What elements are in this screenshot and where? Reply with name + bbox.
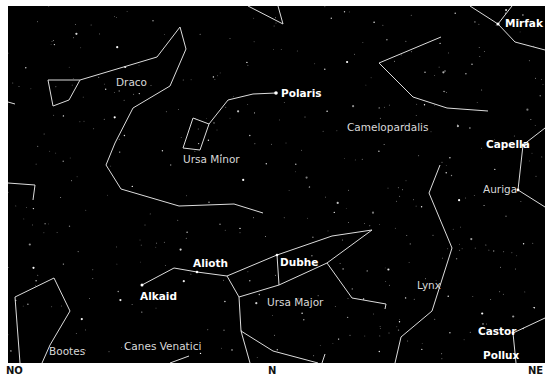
ursa-minor-lines (183, 93, 276, 150)
camelopardalis-lines (379, 37, 488, 111)
direction-label-no: NO (6, 365, 23, 376)
star-label-castor: Castor (478, 325, 516, 337)
star-map: MirfakPolarisCapellaAliothDubheAlkaidCas… (8, 6, 545, 363)
draco-tail-lines (8, 102, 15, 104)
constellation-label-ursa-minor: Ursa Minor (183, 153, 240, 165)
canes-venatici-lines (170, 356, 189, 363)
star-label-dubhe: Dubhe (280, 256, 318, 268)
ursa-major-lines (322, 354, 325, 363)
constellation-label-auriga: Auriga (483, 183, 517, 195)
star-label-polaris: Polaris (281, 87, 322, 99)
constellation-label-lynx: Lynx (417, 279, 441, 291)
star-label-alkaid: Alkaid (140, 290, 177, 302)
star-label-pollux: Pollux (483, 349, 519, 361)
draco-lines (48, 80, 80, 106)
cepheus-lines (248, 6, 283, 24)
star-label-alioth: Alioth (193, 257, 228, 269)
direction-label-ne: NE (528, 365, 543, 376)
ursa-major-lines (327, 263, 386, 309)
constellation-label-draco: Draco (116, 76, 147, 88)
named-star-points (141, 22, 525, 357)
hercules-lines (8, 183, 35, 200)
draco-lines (80, 27, 263, 213)
constellation-lines (8, 6, 545, 363)
star-label-mirfak: Mirfak (505, 17, 543, 29)
direction-label-n: N (268, 365, 276, 376)
constellation-label-camelopardalis: Camelopardalis (347, 121, 428, 133)
constellation-label-canes-venatici: Canes Venatici (124, 340, 201, 352)
constellation-label-bootes: Bootes (49, 345, 85, 357)
ursa-major-lines (277, 255, 279, 285)
lynx-lines (395, 165, 452, 363)
constellation-label-ursa-major: Ursa Major (267, 296, 323, 308)
star-label-capella: Capella (486, 138, 530, 150)
